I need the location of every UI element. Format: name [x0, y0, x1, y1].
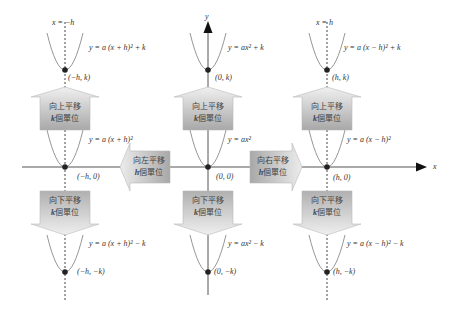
vertex-label-center-bottom: (0, −k)	[214, 268, 236, 276]
unit-text: 個單位	[139, 168, 163, 177]
right-arrow-text: 向右平移 h個單位	[250, 155, 296, 179]
x-axis-label: x	[433, 163, 437, 171]
unit-text: 個單位	[55, 114, 79, 123]
vertex-right-mid	[324, 164, 330, 170]
right-text-line2: h個單位	[250, 167, 296, 179]
down-arrow-left-text: 向下平移 k個單位	[40, 195, 90, 219]
vertex-left-mid	[62, 164, 68, 170]
vertex-center-bottom	[205, 269, 211, 275]
up-text-line1: 向上平移	[183, 101, 233, 113]
vertex-label-right-top: (h, k)	[332, 74, 349, 82]
vertex-label-right-mid: (h, 0)	[333, 174, 350, 182]
y-axis-label: y	[205, 13, 209, 21]
vertex-left-top	[62, 67, 68, 73]
down-text-line2: k個單位	[302, 207, 352, 219]
guide-label-right: x = h	[316, 19, 333, 27]
left-arrow-text: 向左平移 h個單位	[126, 155, 172, 179]
y-axis	[204, 21, 213, 295]
equation-left-top: y = a (x + h)² + k	[89, 44, 146, 52]
unit-text: 個單位	[55, 208, 79, 217]
vertex-label-center-mid: (0, 0)	[216, 173, 233, 181]
vertex-label-left-top: (−h, k)	[68, 74, 90, 82]
up-arrow-right-text: 向上平移 k個單位	[302, 101, 352, 125]
up-arrow-left-text: 向上平移 k個單位	[40, 101, 90, 125]
equation-center-top: y = ax² + k	[228, 44, 264, 52]
down-text-line1: 向下平移	[302, 195, 352, 207]
equation-center-bottom: y = ax² − k	[228, 240, 264, 248]
vertex-right-bottom	[324, 269, 330, 275]
unit-text: 個單位	[263, 168, 287, 177]
equation-left-bottom: y = a (x + h)² − k	[89, 240, 146, 248]
left-text-line1: 向左平移	[126, 155, 172, 167]
unit-text: 個單位	[317, 114, 341, 123]
down-arrow-center-text: 向下平移 k個單位	[183, 195, 233, 219]
vertex-right-top	[324, 67, 330, 73]
up-arrow-center-text: 向上平移 k個單位	[183, 101, 233, 125]
down-text-line2: k個單位	[40, 207, 90, 219]
left-text-line2: h個單位	[126, 167, 172, 179]
equation-right-bottom: y = a (x − h)² − k	[347, 240, 404, 248]
up-text-line2: k個單位	[183, 113, 233, 125]
unit-text: 個單位	[198, 208, 222, 217]
down-text-line1: 向下平移	[183, 195, 233, 207]
down-arrow-right-text: 向下平移 k個單位	[302, 195, 352, 219]
unit-text: 個單位	[198, 114, 222, 123]
up-text-line2: k個單位	[40, 113, 90, 125]
down-text-line2: k個單位	[183, 207, 233, 219]
vertex-left-bottom	[62, 269, 68, 275]
equation-center-mid: y = ax²	[228, 136, 251, 144]
up-text-line1: 向上平移	[40, 101, 90, 113]
unit-text: 個單位	[317, 208, 341, 217]
up-text-line1: 向上平移	[302, 101, 352, 113]
vertex-label-center-top: (0, k)	[215, 74, 232, 82]
right-text-line1: 向右平移	[250, 155, 296, 167]
equation-right-mid: y = a (x − h)²	[347, 136, 391, 144]
equation-left-mid: y = a (x + h)²	[89, 136, 133, 144]
equation-right-top: y = a (x − h)² + k	[344, 44, 401, 52]
vertex-center-top	[205, 67, 211, 73]
guide-label-left: x = −h	[52, 19, 74, 27]
vertex-center-mid	[205, 164, 211, 170]
vertex-label-left-mid: (−h, 0)	[77, 173, 100, 181]
up-text-line2: k個單位	[302, 113, 352, 125]
x-axis	[22, 163, 427, 172]
vertex-label-left-bottom: (−h, −k)	[77, 268, 105, 276]
vertex-label-right-bottom: (h, −k)	[333, 268, 355, 276]
down-text-line1: 向下平移	[40, 195, 90, 207]
